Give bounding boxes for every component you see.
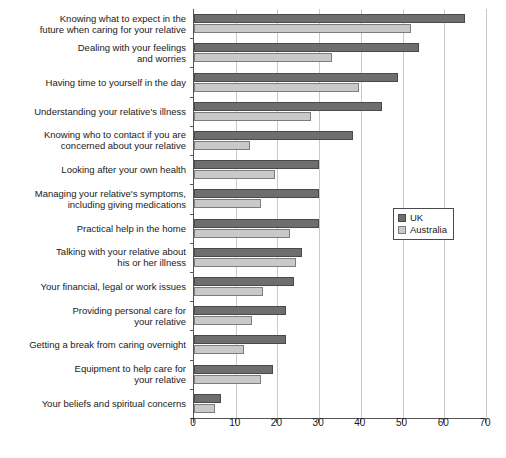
bar-row xyxy=(194,389,486,418)
bar-uk-1 xyxy=(194,43,419,52)
x-tick-label-50: 50 xyxy=(387,417,417,428)
category-label-0: Knowing what to expect in the future whe… xyxy=(0,13,186,35)
bar-uk-7 xyxy=(194,219,319,228)
bar-row xyxy=(194,67,486,96)
bar-row xyxy=(194,38,486,67)
legend-swatch-australia xyxy=(398,226,406,234)
bar-uk-2 xyxy=(194,73,398,82)
bar-uk-9 xyxy=(194,277,294,286)
gridline-70 xyxy=(486,9,487,418)
bar-australia-10 xyxy=(194,316,252,325)
bar-row xyxy=(194,301,486,330)
bar-uk-12 xyxy=(194,365,273,374)
y-tick-0 xyxy=(190,38,194,39)
bar-uk-4 xyxy=(194,131,353,140)
bar-australia-1 xyxy=(194,53,332,62)
y-tick-3 xyxy=(190,126,194,127)
category-label-11: Getting a break from caring overnight xyxy=(0,339,186,350)
category-axis-labels: Knowing what to expect in the future whe… xyxy=(0,9,186,418)
bar-australia-12 xyxy=(194,375,261,384)
bar-row xyxy=(194,330,486,359)
bar-australia-8 xyxy=(194,258,296,267)
bar-australia-5 xyxy=(194,170,275,179)
x-tick-label-20: 20 xyxy=(261,417,291,428)
bar-uk-5 xyxy=(194,160,319,169)
legend-label-uk: UK xyxy=(410,212,423,224)
bar-uk-11 xyxy=(194,335,286,344)
bar-uk-8 xyxy=(194,248,302,257)
y-tick-10 xyxy=(190,330,194,331)
bar-row xyxy=(194,243,486,272)
y-tick-8 xyxy=(190,272,194,273)
category-label-10: Providing personal care for your relativ… xyxy=(0,305,186,327)
bar-australia-7 xyxy=(194,229,290,238)
bar-row xyxy=(194,126,486,155)
category-label-1: Dealing with your feelings and worries xyxy=(0,42,186,64)
y-tick-2 xyxy=(190,97,194,98)
bar-australia-0 xyxy=(194,24,411,33)
y-tick-7 xyxy=(190,243,194,244)
bar-uk-6 xyxy=(194,189,319,198)
legend-label-australia: Australia xyxy=(410,224,447,236)
bar-australia-4 xyxy=(194,141,250,150)
bar-australia-13 xyxy=(194,404,215,413)
legend: UK Australia xyxy=(393,208,454,240)
bar-australia-2 xyxy=(194,83,359,92)
bar-row xyxy=(194,272,486,301)
x-tick-label-70: 70 xyxy=(470,417,500,428)
bar-australia-11 xyxy=(194,345,244,354)
y-tick-9 xyxy=(190,301,194,302)
y-tick-11 xyxy=(190,360,194,361)
category-label-5: Looking after your own health xyxy=(0,164,186,175)
bar-australia-6 xyxy=(194,199,261,208)
bar-row xyxy=(194,360,486,389)
bar-row xyxy=(194,97,486,126)
legend-item-uk: UK xyxy=(398,212,447,224)
y-tick-4 xyxy=(190,155,194,156)
category-label-9: Your financial, legal or work issues xyxy=(0,281,186,292)
bar-chart: Knowing what to expect in the future whe… xyxy=(0,0,506,458)
bar-uk-13 xyxy=(194,394,221,403)
x-tick-label-30: 30 xyxy=(303,417,333,428)
category-label-7: Practical help in the home xyxy=(0,223,186,234)
bar-uk-10 xyxy=(194,306,286,315)
x-tick-label-60: 60 xyxy=(428,417,458,428)
legend-swatch-uk xyxy=(398,214,406,222)
bar-australia-3 xyxy=(194,112,311,121)
bar-uk-3 xyxy=(194,102,382,111)
x-tick-label-10: 10 xyxy=(220,417,250,428)
legend-item-australia: Australia xyxy=(398,224,447,236)
y-tick-1 xyxy=(190,67,194,68)
category-label-6: Managing your relative's symptoms, inclu… xyxy=(0,188,186,210)
x-tick-label-0: 0 xyxy=(178,417,208,428)
y-tick-5 xyxy=(190,184,194,185)
category-label-3: Understanding your relative's illness xyxy=(0,106,186,117)
y-tick-12 xyxy=(190,389,194,390)
category-label-2: Having time to yourself in the day xyxy=(0,77,186,88)
bar-australia-9 xyxy=(194,287,263,296)
bar-uk-0 xyxy=(194,14,465,23)
y-tick-6 xyxy=(190,214,194,215)
category-label-8: Talking with your relative about his or … xyxy=(0,246,186,268)
bar-row xyxy=(194,9,486,38)
x-tick-label-40: 40 xyxy=(345,417,375,428)
category-label-4: Knowing who to contact if you are concer… xyxy=(0,129,186,151)
bar-row xyxy=(194,155,486,184)
category-label-12: Equipment to help care for your relative xyxy=(0,363,186,385)
category-label-13: Your beliefs and spiritual concerns xyxy=(0,398,186,409)
